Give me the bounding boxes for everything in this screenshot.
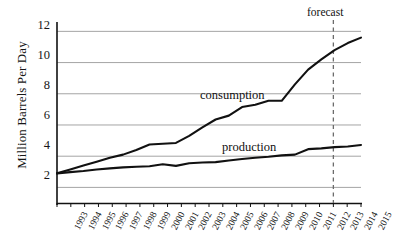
y-tick-label-10: 10 (26, 48, 50, 63)
y-tick-label-6: 6 (26, 108, 50, 123)
forecast-annotation-label: forecast (307, 6, 343, 18)
y-tick-label-4: 4 (26, 138, 50, 153)
y-tick-label-2: 2 (26, 168, 50, 183)
y-tick-label-8: 8 (26, 78, 50, 93)
series-lines (57, 38, 361, 174)
y-axis-title: Million Barrels Per Day (14, 20, 30, 190)
series-line-consumption (57, 38, 361, 174)
gridlines (57, 31, 361, 187)
series-label-production: production (222, 140, 276, 155)
series-label-consumption: consumption (200, 88, 265, 103)
y-tick-label-12: 12 (26, 18, 50, 33)
